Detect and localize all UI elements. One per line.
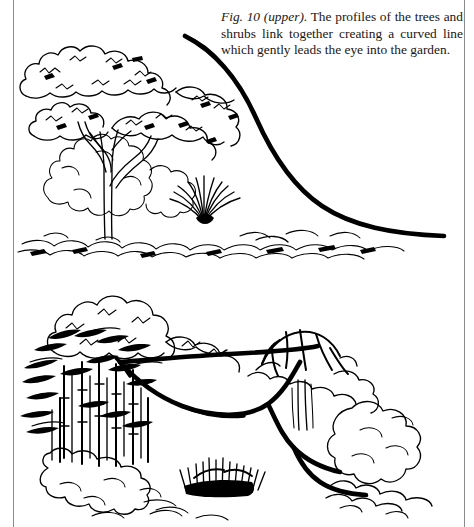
background-shrub-mass	[44, 134, 196, 217]
book-page: Fig. 10 (upper). The profiles of the tre…	[0, 0, 474, 527]
dark-grass-clump	[180, 458, 265, 497]
profile-curve	[185, 36, 444, 236]
lower-illustration	[0, 258, 474, 527]
bamboo-thicket	[20, 328, 162, 466]
fountain-grass-clump	[170, 176, 240, 224]
upper-illustration	[0, 0, 474, 262]
ground-line	[92, 510, 228, 520]
ground-cover-planting	[18, 230, 404, 259]
shrub-mass-left	[40, 448, 188, 514]
shrub-mass-right	[326, 402, 432, 518]
profile-curve	[116, 346, 366, 495]
